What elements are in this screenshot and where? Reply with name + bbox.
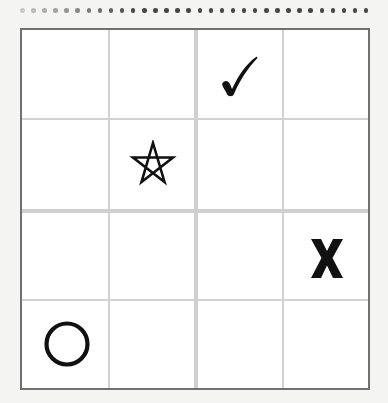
dot — [142, 8, 147, 13]
circle-outline-icon — [43, 320, 91, 368]
dot — [186, 8, 191, 13]
dot — [220, 8, 225, 13]
dot — [231, 8, 236, 13]
cell-r2-c2[interactable] — [198, 213, 284, 302]
dot — [320, 8, 325, 13]
cell-r3-c3[interactable] — [283, 301, 369, 390]
cell-r0-c3[interactable] — [283, 30, 369, 119]
dot — [164, 8, 169, 13]
dotted-separator — [20, 8, 388, 13]
dot — [331, 8, 336, 13]
checkmark-icon — [218, 54, 260, 100]
cell-r3-c1[interactable] — [109, 301, 195, 390]
cell-r1-c3[interactable] — [283, 119, 369, 208]
dot — [209, 8, 214, 13]
dot — [64, 8, 69, 13]
dot — [53, 8, 58, 13]
cell-r0-c1[interactable] — [109, 30, 195, 119]
cell-r1-c2[interactable] — [198, 119, 284, 208]
cell-r2-c0[interactable] — [22, 213, 108, 302]
dot — [87, 8, 92, 13]
dot — [120, 8, 125, 13]
dot — [286, 8, 291, 13]
star-outline-icon — [129, 140, 177, 188]
x-letter-icon — [310, 238, 344, 279]
dot — [308, 8, 313, 13]
dot — [131, 8, 136, 13]
dot — [153, 8, 158, 13]
cell-r0-c0[interactable] — [22, 30, 108, 119]
dot — [353, 8, 358, 13]
dot — [242, 8, 247, 13]
dot — [98, 8, 103, 13]
dot — [31, 8, 36, 13]
dot — [42, 8, 47, 13]
dot — [264, 8, 269, 13]
dot — [364, 8, 369, 13]
dot — [342, 8, 347, 13]
dot — [20, 8, 25, 13]
dot — [297, 8, 302, 13]
dot — [198, 8, 203, 13]
dot — [275, 8, 280, 13]
cell-r3-c2[interactable] — [198, 301, 284, 390]
cell-r2-c1[interactable] — [109, 213, 195, 302]
dot — [253, 8, 258, 13]
dot — [175, 8, 180, 13]
dot — [109, 8, 114, 13]
puzzle-board — [20, 28, 370, 390]
dot — [75, 8, 80, 13]
cell-r1-c0[interactable] — [22, 119, 108, 208]
